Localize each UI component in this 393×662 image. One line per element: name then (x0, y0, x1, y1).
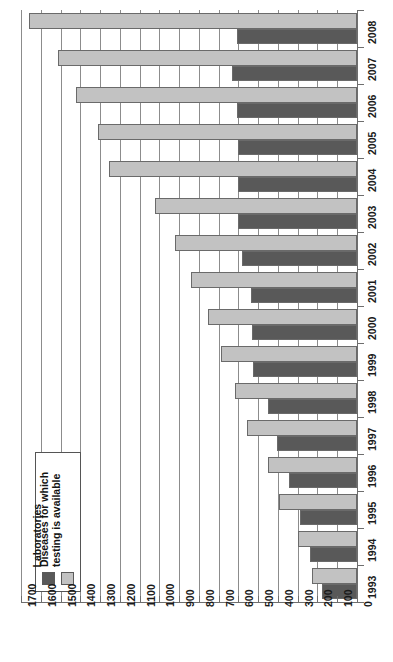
category-axis-label-1995: 1995 (366, 502, 378, 525)
bar-diseases (76, 87, 357, 103)
category-axis-tick (357, 195, 364, 196)
value-axis-tick-label: 300 (303, 589, 315, 607)
bar-diseases (155, 198, 357, 214)
value-axis-tick (278, 596, 279, 603)
category-axis-tick (357, 602, 364, 603)
value-axis-tick-label: 100 (342, 589, 354, 607)
bar-laboratories (268, 399, 357, 415)
category-axis-label-2007: 2007 (366, 58, 378, 81)
bar-diseases (268, 457, 357, 473)
category-axis-label-2000: 2000 (366, 317, 378, 340)
category-axis-label-1997: 1997 (366, 428, 378, 451)
bar-laboratories (237, 103, 357, 119)
category-axis-label-1998: 1998 (366, 391, 378, 414)
value-axis-tick (258, 596, 259, 603)
category-axis-tick (357, 47, 364, 48)
value-axis-tick-label: 1400 (85, 584, 97, 607)
value-axis-tick-label: 1700 (26, 584, 38, 607)
chart-legend: Laboratories Diseases for which testing … (35, 452, 81, 592)
legend-label-diseases: Diseases for which testing is available (39, 437, 62, 567)
category-axis-tick (357, 10, 364, 11)
value-axis-tick (317, 596, 318, 603)
bar-laboratories (277, 436, 357, 452)
bar-diseases (235, 383, 357, 399)
category-axis-tick (357, 232, 364, 233)
category-axis-label-2002: 2002 (366, 243, 378, 266)
bar-chart: Laboratories Diseases for which testing … (0, 0, 393, 662)
value-axis-tick (337, 596, 338, 603)
category-axis-tick (357, 84, 364, 85)
value-axis-tick-label: 200 (322, 589, 334, 607)
category-axis-label-2005: 2005 (366, 132, 378, 155)
value-axis-tick (21, 596, 22, 603)
category-axis-label-2004: 2004 (366, 169, 378, 192)
bar-laboratories (238, 140, 357, 156)
bar-diseases (208, 309, 357, 325)
category-axis-tick (357, 306, 364, 307)
value-axis-tick-label: 500 (263, 589, 275, 607)
bar-laboratories (251, 288, 357, 304)
value-axis-tick-label: 900 (184, 589, 196, 607)
value-axis-tick (41, 596, 42, 603)
bar-laboratories (253, 362, 357, 378)
category-axis-tick (357, 417, 364, 418)
bar-diseases (221, 346, 357, 362)
value-axis-tick (238, 596, 239, 603)
category-axis-label-2008: 2008 (366, 21, 378, 44)
bar-diseases (247, 420, 357, 436)
category-axis-label-1993: 1993 (366, 576, 378, 599)
bar-laboratories (252, 325, 357, 341)
bar-diseases (191, 272, 357, 288)
value-axis-tick-label: 1100 (145, 584, 157, 607)
value-axis-tick-label: 800 (204, 589, 216, 607)
value-axis-tick-label: 700 (224, 589, 236, 607)
category-axis-label-1999: 1999 (366, 354, 378, 377)
value-axis-tick-label: 1000 (164, 584, 176, 607)
category-axis-tick (357, 343, 364, 344)
value-axis-tick (298, 596, 299, 603)
category-axis-label-2003: 2003 (366, 206, 378, 229)
category-axis-tick (357, 158, 364, 159)
value-axis-tick-label: 1500 (66, 584, 78, 607)
bar-diseases (109, 161, 357, 177)
category-axis-tick (357, 565, 364, 566)
bar-laboratories (238, 214, 357, 230)
value-axis-tick (199, 596, 200, 603)
category-axis-label-1994: 1994 (366, 539, 378, 562)
value-axis-tick (179, 596, 180, 603)
category-axis-tick (357, 380, 364, 381)
bar-diseases (98, 124, 357, 140)
category-axis-tick (357, 121, 364, 122)
bar-laboratories (237, 29, 357, 45)
bar-laboratories (242, 251, 357, 267)
bar-diseases (279, 494, 357, 510)
bar-diseases (175, 235, 357, 251)
category-axis-label-2001: 2001 (366, 280, 378, 303)
bar-laboratories (289, 473, 357, 489)
value-axis-tick (100, 596, 101, 603)
category-axis-tick (357, 528, 364, 529)
bar-laboratories (232, 66, 357, 82)
category-axis-tick (357, 269, 364, 270)
category-axis-tick (357, 491, 364, 492)
value-axis-tick (80, 596, 81, 603)
bar-laboratories (238, 177, 357, 193)
category-axis-label-2006: 2006 (366, 95, 378, 118)
bar-diseases (29, 13, 357, 29)
value-axis-tick-label: 1200 (125, 584, 137, 607)
value-axis-tick (140, 596, 141, 603)
value-axis-tick-label: 400 (283, 589, 295, 607)
value-axis-tick (219, 596, 220, 603)
value-axis-tick-label: 600 (243, 589, 255, 607)
value-axis-tick (61, 596, 62, 603)
value-axis-tick (159, 596, 160, 603)
category-axis-tick (357, 454, 364, 455)
bar-laboratories (300, 510, 357, 526)
value-axis-tick (120, 596, 121, 603)
bar-diseases (58, 50, 357, 66)
value-axis-tick-label: 1300 (105, 584, 117, 607)
bar-diseases (312, 568, 357, 584)
category-axis-label-1996: 1996 (366, 465, 378, 488)
value-axis-tick-label: 1600 (46, 584, 58, 607)
bar-diseases (298, 531, 357, 547)
